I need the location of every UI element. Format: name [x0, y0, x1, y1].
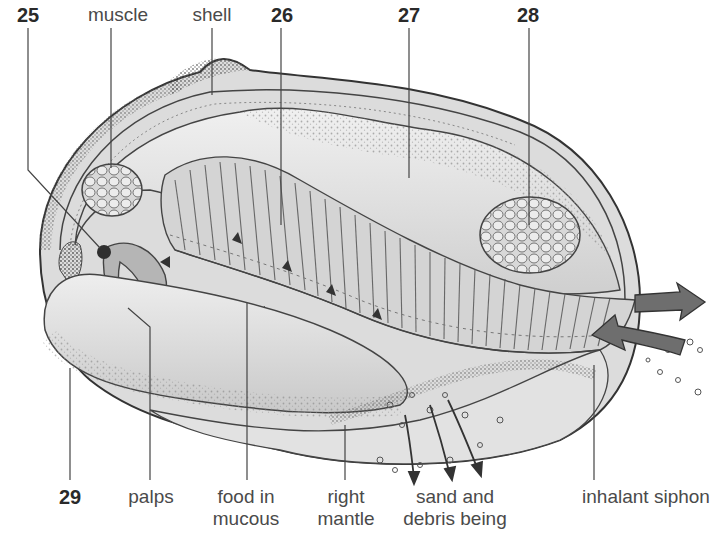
- posterior-adductor-muscle: [480, 197, 580, 273]
- label-sand-and-debris: sand and debris being: [403, 486, 507, 530]
- anterior-adductor-muscle: [82, 164, 142, 216]
- label-inhalant-siphon: inhalant siphon: [582, 486, 710, 508]
- label-26: 26: [271, 4, 293, 26]
- label-29: 29: [59, 486, 81, 508]
- label-27: 27: [398, 4, 420, 26]
- label-food-in-mucous: food in mucous: [213, 486, 280, 530]
- exhalant-arrow-icon: [635, 283, 705, 320]
- label-palps: palps: [128, 486, 173, 508]
- label-25: 25: [17, 4, 39, 26]
- label-sand-and-debris-line2: debris being: [403, 508, 507, 530]
- label-right-mantle-line1: right: [317, 486, 374, 508]
- label-right-mantle-line2: mantle: [317, 508, 374, 530]
- clam-illustration: [0, 0, 720, 539]
- label-sand-and-debris-line1: sand and: [403, 486, 507, 508]
- label-right-mantle: right mantle: [317, 486, 374, 530]
- clam-anatomy-diagram: 25 muscle shell 26 27 28 29 palps food i…: [0, 0, 720, 539]
- label-28: 28: [517, 4, 539, 26]
- label-shell: shell: [192, 4, 231, 26]
- label-food-in-mucous-line1: food in: [213, 486, 280, 508]
- label-food-in-mucous-line2: mucous: [213, 508, 280, 530]
- label-muscle: muscle: [88, 4, 148, 26]
